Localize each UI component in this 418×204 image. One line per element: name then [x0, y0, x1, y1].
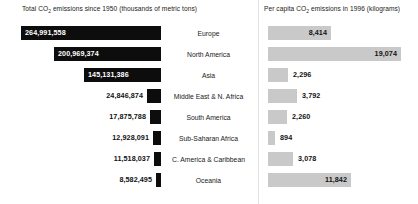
- per-capita-cell: 2,296: [268, 65, 418, 86]
- per-capita-cell: 3,792: [268, 86, 418, 107]
- total-emissions-bar: [153, 131, 161, 145]
- per-capita-value: 11,842: [321, 173, 347, 187]
- per-capita-value: 2,260: [292, 110, 310, 124]
- total-emissions-value: 17,875,788: [109, 110, 146, 124]
- per-capita-cell: 19,074: [268, 44, 418, 65]
- per-capita-bar: [268, 68, 288, 82]
- left-header-subscript: 2: [48, 9, 51, 14]
- region-label: Oceania: [163, 170, 254, 191]
- per-capita-value: 3,078: [298, 152, 316, 166]
- right-header-pre: Per capita CO: [264, 5, 306, 12]
- total-emissions-value: 200,969,374: [58, 47, 99, 61]
- chart-row: 264,991,558Europe8,414: [0, 23, 418, 44]
- chart-row: 200,969,374North America19,074: [0, 44, 418, 65]
- region-label: South America: [163, 107, 254, 128]
- total-emissions-cell: 11,518,037: [0, 149, 161, 170]
- region-label: Europe: [163, 23, 254, 44]
- chart-row: 145,131,386Asia2,296: [0, 65, 418, 86]
- per-capita-value: 8,414: [301, 26, 327, 40]
- total-emissions-cell: 12,928,091: [0, 128, 161, 149]
- region-label: Asia: [163, 65, 254, 86]
- total-emissions-value: 24,846,874: [106, 89, 143, 103]
- per-capita-value: 2,296: [293, 68, 311, 82]
- total-emissions-cell: 8,582,495: [0, 170, 161, 191]
- co2-emissions-figure: Total CO2 emissions since 1950 (thousand…: [0, 0, 418, 204]
- per-capita-bar: [268, 89, 297, 103]
- per-capita-value: 3,792: [302, 89, 320, 103]
- total-emissions-cell: 24,846,874: [0, 86, 161, 107]
- total-emissions-cell: 264,991,558: [0, 23, 161, 44]
- right-header-post: emissions in 1996 (kilograms): [309, 5, 400, 12]
- total-emissions-value: 12,928,091: [112, 131, 149, 145]
- total-emissions-value: 145,131,386: [88, 68, 129, 82]
- right-header-subscript: 2: [306, 9, 309, 14]
- per-capita-value: 19,074: [371, 47, 397, 61]
- chart-rows: 264,991,558Europe8,414200,969,374North A…: [0, 23, 418, 191]
- total-emissions-bar: [147, 89, 161, 103]
- region-label: Sub-Saharan Africa: [163, 128, 254, 149]
- total-emissions-bar: [150, 110, 161, 124]
- left-column-header: Total CO2 emissions since 1950 (thousand…: [22, 4, 197, 14]
- per-capita-cell: 3,078: [268, 149, 418, 170]
- total-emissions-value: 11,518,037: [114, 152, 150, 166]
- per-capita-cell: 11,842: [268, 170, 418, 191]
- right-column-header: Per capita CO2 emissions in 1996 (kilogr…: [264, 4, 400, 14]
- region-label: Middle East & N. Africa: [163, 86, 254, 107]
- total-emissions-value: 8,582,495: [119, 173, 152, 187]
- total-emissions-cell: 145,131,386: [0, 65, 161, 86]
- region-label: North America: [163, 44, 254, 65]
- left-header-pre: Total CO: [22, 5, 48, 12]
- per-capita-cell: 8,414: [268, 23, 418, 44]
- chart-row: 17,875,788South America2,260: [0, 107, 418, 128]
- total-emissions-cell: 17,875,788: [0, 107, 161, 128]
- per-capita-bar: [268, 110, 287, 124]
- total-emissions-bar: [156, 173, 161, 187]
- total-emissions-value: 264,991,558: [25, 26, 66, 40]
- per-capita-value: 894: [280, 131, 292, 145]
- per-capita-cell: 894: [268, 128, 418, 149]
- chart-row: 12,928,091Sub-Saharan Africa894: [0, 128, 418, 149]
- per-capita-cell: 2,260: [268, 107, 418, 128]
- per-capita-bar: [268, 131, 275, 145]
- total-emissions-cell: 200,969,374: [0, 44, 161, 65]
- chart-row: 8,582,495Oceania11,842: [0, 170, 418, 191]
- chart-row: 24,846,874Middle East & N. Africa3,792: [0, 86, 418, 107]
- left-header-post: emissions since 1950 (thousands of metri…: [51, 5, 197, 12]
- per-capita-bar: [268, 152, 293, 166]
- region-label: C. America & Caribbean: [163, 149, 254, 170]
- total-emissions-bar: [154, 152, 161, 166]
- chart-row: 11,518,037C. America & Caribbean3,078: [0, 149, 418, 170]
